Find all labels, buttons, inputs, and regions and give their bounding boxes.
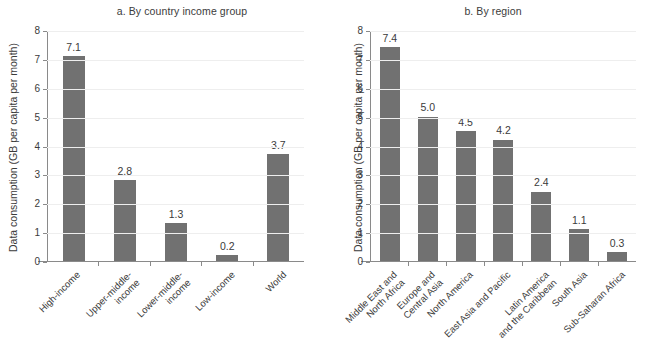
y-axis-tick-label: 0 <box>357 257 363 267</box>
gridline <box>370 233 636 234</box>
y-axis-tick-mark <box>43 233 47 234</box>
gridline <box>370 204 636 205</box>
bar[interactable] <box>607 252 627 261</box>
y-axis-tick-mark <box>43 89 47 90</box>
bar[interactable] <box>216 255 238 261</box>
panel-b-x-axis-line <box>370 261 636 262</box>
y-axis-tick-mark <box>366 89 370 90</box>
bar-value-label: 0.3 <box>610 238 625 249</box>
bar[interactable] <box>267 154 289 261</box>
y-axis-tick-mark <box>366 233 370 234</box>
y-axis-tick-mark <box>43 31 47 32</box>
bar-value-label: 3.7 <box>271 140 286 151</box>
panel-b-plot-area: 7.45.04.54.22.41.10.3 012345678 <box>370 31 636 262</box>
y-axis-tick-mark <box>366 31 370 32</box>
y-axis-tick-label: 1 <box>34 228 40 238</box>
bar-value-label: 7.1 <box>66 42 81 53</box>
y-axis-tick-mark <box>366 175 370 176</box>
panel-b-title: b. By region <box>320 5 646 17</box>
gridline <box>47 118 304 119</box>
y-axis-tick-label: 5 <box>34 113 40 123</box>
y-axis-tick-mark <box>366 60 370 61</box>
panel-a-x-axis-line <box>47 261 304 262</box>
y-axis-tick-mark <box>366 147 370 148</box>
y-axis-tick-label: 0 <box>34 257 40 267</box>
panel-a-plot-area: 7.12.81.30.23.7 012345678 <box>47 31 304 262</box>
gridline <box>370 175 636 176</box>
gridline <box>370 31 636 32</box>
y-axis-tick-label: 3 <box>34 170 40 180</box>
bar[interactable] <box>380 47 400 261</box>
y-axis-tick-mark <box>366 204 370 205</box>
figure-two-panel-bar-charts: a. By country income group Data consumpt… <box>0 0 646 341</box>
x-axis-category-label: Lower-middle- income <box>135 269 193 327</box>
y-axis-tick-label: 2 <box>357 199 363 209</box>
x-axis-category-label: World <box>263 269 288 294</box>
bar-value-label: 2.4 <box>534 177 549 188</box>
bar-value-label: 1.1 <box>572 215 587 226</box>
bar[interactable] <box>165 223 187 261</box>
y-axis-tick-mark <box>43 147 47 148</box>
y-axis-tick-label: 8 <box>34 26 40 36</box>
y-axis-tick-label: 3 <box>357 170 363 180</box>
bar-value-label: 1.3 <box>169 209 184 220</box>
y-axis-tick-label: 4 <box>34 142 40 152</box>
bar-value-label: 7.4 <box>383 33 398 44</box>
gridline <box>47 60 304 61</box>
gridline <box>47 31 304 32</box>
bar-value-label: 0.2 <box>220 241 235 252</box>
y-axis-tick-mark <box>43 204 47 205</box>
y-axis-tick-mark <box>43 262 47 263</box>
y-axis-tick-mark <box>43 118 47 119</box>
bar[interactable] <box>63 56 85 261</box>
panel-a-category-labels: High-incomeUpper-middle- incomeLower-mid… <box>47 266 304 341</box>
x-axis-category-label: Low-income <box>193 269 237 313</box>
y-axis-tick-mark <box>366 118 370 119</box>
x-axis-category-label: High-income <box>37 269 82 314</box>
y-axis-tick-label: 1 <box>357 228 363 238</box>
bar[interactable] <box>114 180 136 261</box>
gridline <box>370 89 636 90</box>
bar-value-label: 5.0 <box>420 102 435 113</box>
panel-a-y-axis-label: Data consumption (GB per capita per mont… <box>7 52 19 252</box>
gridline <box>47 204 304 205</box>
y-axis-tick-label: 5 <box>357 113 363 123</box>
y-axis-tick-label: 8 <box>357 26 363 36</box>
gridline <box>47 233 304 234</box>
panel-b-category-labels: Middle East and North AfricaEurope and C… <box>370 266 636 341</box>
panel-a-title: a. By country income group <box>0 5 342 17</box>
bar-value-label: 4.2 <box>496 125 511 136</box>
gridline <box>47 175 304 176</box>
x-axis-category-label: South Asia <box>549 269 589 309</box>
gridline <box>47 89 304 90</box>
bar[interactable] <box>418 117 438 261</box>
bar[interactable] <box>493 140 513 261</box>
gridline <box>370 147 636 148</box>
y-axis-tick-mark <box>366 262 370 263</box>
y-axis-tick-label: 7 <box>357 55 363 65</box>
y-axis-tick-label: 6 <box>34 84 40 94</box>
bar[interactable] <box>531 192 551 261</box>
gridline <box>370 118 636 119</box>
gridline <box>47 147 304 148</box>
y-axis-tick-label: 6 <box>357 84 363 94</box>
x-axis-category-label: Upper-middle- income <box>84 269 142 327</box>
y-axis-tick-label: 7 <box>34 55 40 65</box>
panel-a-by-country-income-group: a. By country income group Data consumpt… <box>0 0 320 341</box>
panel-b-by-region: b. By region Data consumption (GB per ca… <box>320 0 646 341</box>
gridline <box>370 60 636 61</box>
bar[interactable] <box>456 131 476 261</box>
y-axis-tick-label: 2 <box>34 199 40 209</box>
y-axis-tick-mark <box>43 175 47 176</box>
y-axis-tick-mark <box>43 60 47 61</box>
y-axis-tick-label: 4 <box>357 142 363 152</box>
